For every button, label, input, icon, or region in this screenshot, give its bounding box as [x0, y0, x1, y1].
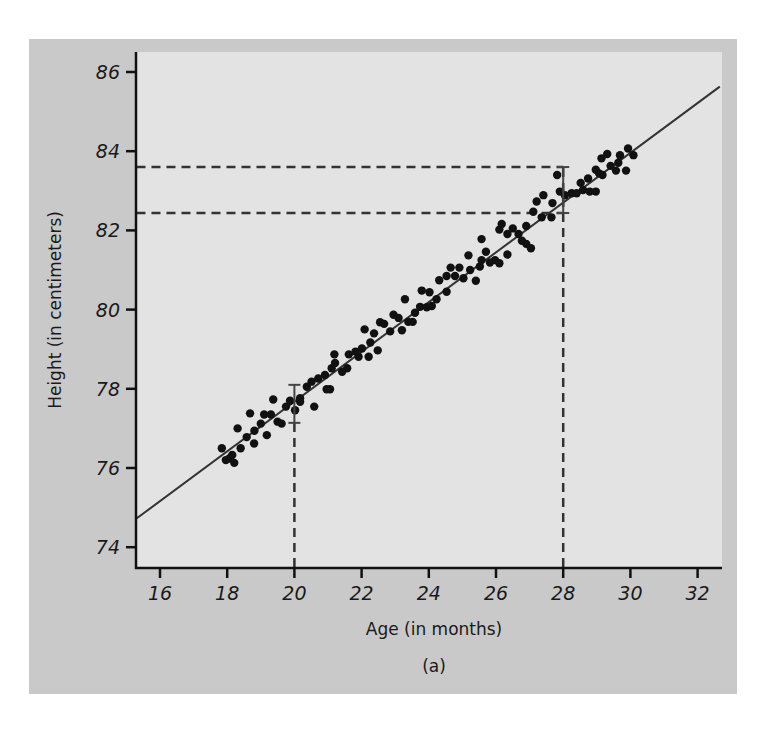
data-point	[354, 353, 362, 361]
data-point	[366, 338, 374, 346]
data-point	[394, 314, 402, 322]
data-point	[455, 263, 463, 271]
data-point	[584, 174, 592, 182]
data-point	[472, 276, 480, 284]
data-point	[230, 459, 238, 467]
data-point	[218, 444, 226, 452]
data-point	[614, 158, 622, 166]
data-point	[603, 150, 611, 158]
data-point	[432, 295, 440, 303]
data-point	[482, 248, 490, 256]
data-point	[553, 171, 561, 179]
x-tick-label: 28	[551, 582, 575, 604]
data-point	[380, 320, 388, 328]
data-point	[477, 235, 485, 243]
data-point	[398, 326, 406, 334]
data-point	[451, 272, 459, 280]
figure-caption: (a)	[422, 656, 446, 676]
data-point	[331, 359, 339, 367]
x-tick-label: 20	[282, 582, 306, 604]
y-tick-label: 76	[96, 457, 120, 479]
data-point	[477, 256, 485, 264]
y-tick-label: 86	[96, 61, 120, 83]
data-point	[532, 197, 540, 205]
data-point	[576, 179, 584, 187]
data-point	[539, 191, 547, 199]
x-tick-label: 22	[350, 582, 374, 604]
data-point	[592, 187, 600, 195]
data-point	[616, 151, 624, 159]
data-point	[250, 439, 258, 447]
data-point	[277, 419, 285, 427]
data-point	[330, 350, 338, 358]
data-point	[358, 344, 366, 352]
data-point	[418, 286, 426, 294]
x-tick-label: 24	[417, 582, 441, 604]
data-point	[464, 251, 472, 259]
data-point	[527, 244, 535, 252]
data-point	[503, 250, 511, 258]
data-point	[537, 213, 545, 221]
data-point	[386, 327, 394, 335]
data-point	[442, 272, 450, 280]
data-point	[343, 364, 351, 372]
data-point	[250, 427, 258, 435]
data-point	[370, 329, 378, 337]
data-point	[446, 263, 454, 271]
data-point	[246, 409, 254, 417]
x-tick-label: 16	[148, 582, 172, 604]
data-point	[296, 394, 304, 402]
data-point	[629, 151, 637, 159]
y-tick-label: 74	[96, 536, 120, 558]
data-point	[242, 433, 250, 441]
data-point	[401, 295, 409, 303]
data-point	[360, 325, 368, 333]
data-point	[364, 353, 372, 361]
data-point	[267, 410, 275, 418]
data-point	[495, 259, 503, 267]
data-point	[286, 396, 294, 404]
data-point	[326, 385, 334, 393]
data-point	[548, 199, 556, 207]
data-point	[435, 276, 443, 284]
data-point	[425, 288, 433, 296]
data-point	[522, 222, 530, 230]
data-point	[228, 451, 236, 459]
data-point	[233, 424, 241, 432]
y-tick-label: 78	[96, 378, 120, 400]
data-point	[622, 166, 630, 174]
scatter-figure: 161820222426283032 74767880828486 Age (i…	[0, 0, 774, 732]
x-axis-title: Age (in months)	[366, 619, 502, 639]
data-point	[442, 288, 450, 296]
x-tick-label: 26	[484, 582, 508, 604]
data-point	[321, 371, 329, 379]
data-point	[459, 274, 467, 282]
data-point	[547, 213, 555, 221]
y-axis-title: Height (in centimeters)	[45, 211, 65, 409]
x-tick-label: 32	[686, 582, 710, 604]
x-tick-label: 18	[215, 582, 239, 604]
data-point	[310, 402, 318, 410]
y-tick-label: 84	[96, 140, 120, 162]
data-point	[408, 318, 416, 326]
data-point	[498, 220, 506, 228]
data-point	[466, 266, 474, 274]
data-point	[612, 166, 620, 174]
data-point	[236, 444, 244, 452]
data-point	[263, 431, 271, 439]
y-tick-label: 80	[96, 299, 120, 321]
data-point	[269, 395, 277, 403]
data-point	[624, 144, 632, 152]
y-tick-label: 82	[96, 219, 120, 241]
data-point	[598, 171, 606, 179]
data-point	[529, 208, 537, 216]
x-tick-label: 30	[618, 582, 642, 604]
data-point	[257, 419, 265, 427]
data-point	[374, 346, 382, 354]
